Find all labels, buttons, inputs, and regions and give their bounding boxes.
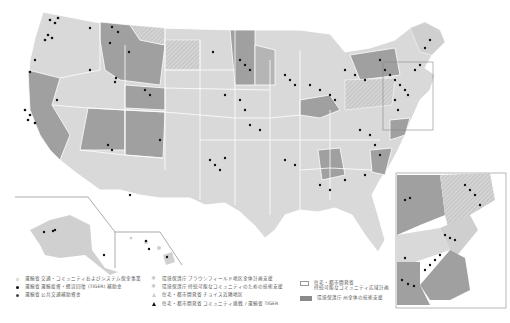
continental-us (28, 12, 445, 252)
legend-item: 運輸省 公共交通補助資金 (14, 291, 141, 299)
square-icon (14, 276, 20, 282)
legend-column-2: 環境保護庁 ブラウンフィールド地区全体計画支援 環境保護庁 持続可能なコミュニテ… (151, 275, 283, 308)
state-colorado-area (125, 85, 165, 110)
legend-item: 環境保護庁 州全体の技術支援 (300, 294, 389, 302)
light-triangle-icon (151, 292, 157, 298)
black-dot-icon (14, 284, 20, 290)
legend-column-1: 運輸省 交通・コミュニティおよびシステム保全事業 運輸省 運輸投資・経済回復 (… (14, 275, 141, 300)
legend-column-3: 住宅・都市開発省 持続可能なコミュニティ広域計画 環境保護庁 州全体の技術支援 (300, 279, 389, 303)
star-icon (151, 276, 157, 282)
legend-item: 住宅・都市開発省 チョイス近隣地区 (151, 291, 283, 299)
black-triangle-icon (151, 301, 157, 307)
state-arizona (80, 108, 125, 150)
filled-box-icon (300, 296, 312, 301)
legend-item: 運輸省 運輸投資・経済回復 (TIGER) 補助金 (14, 283, 141, 291)
legend-item: 住宅・都市開発省 コミュニティ挑戦 / 運輸省 TIGER (151, 300, 283, 308)
legend-item: 環境保護庁 持続可能なコミュニティのための技術支援 (151, 283, 283, 291)
outline-box-icon (300, 281, 309, 286)
star-icon (151, 284, 157, 290)
legend-item: 運輸省 交通・コミュニティおよびシステム保全事業 (14, 275, 141, 283)
alaska-inset (15, 197, 118, 275)
state-new-mexico (125, 110, 165, 158)
legend-item: 環境保護庁 ブラウンフィールド地区全体計画支援 (151, 275, 283, 283)
dark-dot-icon (14, 292, 20, 298)
